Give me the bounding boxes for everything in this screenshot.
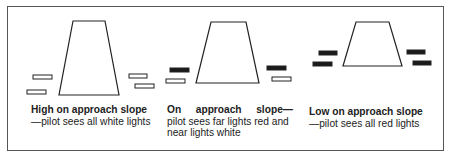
runway-trapezoid <box>196 22 259 83</box>
caption-description: pilot sees far lights red and near light… <box>167 116 293 139</box>
caption-title: High on approach slope <box>31 104 153 116</box>
caption-description: —pilot sees all white lights <box>31 116 153 128</box>
vasi-light-white-left-far <box>33 75 52 79</box>
vasi-light-white-left-near <box>166 79 185 83</box>
runway-trapezoid <box>343 22 402 66</box>
vasi-light-white-right-near <box>135 84 154 88</box>
caption-description: —pilot sees all red lights <box>309 118 439 130</box>
vasi-light-white-left-near <box>27 90 46 94</box>
runway-trapezoid <box>59 21 119 95</box>
panel-on <box>166 22 291 83</box>
panel-low <box>313 22 431 66</box>
vasi-light-white-right-far <box>129 74 147 78</box>
panel-high <box>27 21 154 95</box>
vasi-light-red-right-far <box>407 50 425 54</box>
caption-title: Low on approach slope <box>309 106 439 118</box>
caption-high-on-approach: High on approach slope —pilot sees all w… <box>31 104 153 127</box>
vasi-light-red-left-far <box>170 68 189 72</box>
caption-title: On approach slope— <box>167 104 293 116</box>
vasi-light-red-right-near <box>413 61 431 65</box>
vasi-light-red-right-far <box>267 66 286 70</box>
caption-low-on-approach: Low on approach slope —pilot sees all re… <box>309 106 439 129</box>
caption-on-approach: On approach slope— pilot sees far lights… <box>167 104 293 139</box>
vasi-light-red-left-near <box>313 62 332 66</box>
vasi-light-white-right-near <box>272 77 291 81</box>
vasi-light-red-left-far <box>319 51 337 55</box>
